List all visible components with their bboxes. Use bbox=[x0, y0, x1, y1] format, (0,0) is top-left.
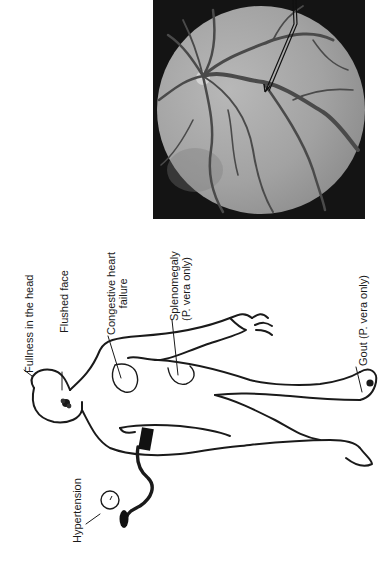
label-spleno-line2: (P. vera only) bbox=[180, 251, 192, 321]
label-chf-line2: failure bbox=[117, 252, 129, 335]
label-splenomegaly: Splenomegaly (P. vera only) bbox=[168, 251, 192, 321]
label-chf-line1: Congestive heart bbox=[105, 252, 117, 335]
label-hypertension: Hypertension bbox=[71, 478, 83, 543]
label-congestive-heart-failure: Congestive heart failure bbox=[105, 252, 129, 335]
flushed-face-mark bbox=[61, 399, 72, 409]
medical-figure: Fullness in the head Flushed face Conges… bbox=[0, 0, 382, 574]
label-gout: Gout (P. vera only) bbox=[357, 275, 369, 366]
label-spleno-line1: Splenomegaly bbox=[168, 251, 180, 321]
head-outline bbox=[32, 370, 70, 390]
bp-bulb bbox=[120, 510, 129, 528]
bp-cuff bbox=[138, 427, 154, 451]
gout-mark bbox=[366, 379, 373, 386]
label-flushed-face: Flushed face bbox=[58, 270, 70, 333]
label-fullness-in-head: Fullness in the head bbox=[23, 275, 35, 373]
